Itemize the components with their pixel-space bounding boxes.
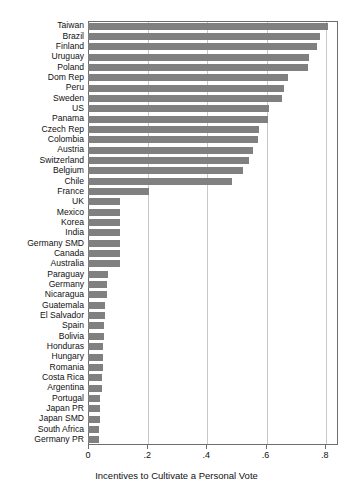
bar-row: [88, 62, 338, 72]
x-axis-title: Incentives to Cultivate a Personal Vote: [0, 470, 353, 481]
bar: [88, 281, 107, 288]
category-label: Dom Rep: [0, 72, 84, 82]
category-label: Nicaragua: [0, 289, 84, 299]
category-label: Spain: [0, 320, 84, 330]
category-label: Guatemala: [0, 300, 84, 310]
category-label: US: [0, 103, 84, 113]
bar-row: [88, 104, 338, 114]
bar-row: [88, 176, 338, 186]
bar: [88, 95, 282, 102]
bar: [88, 240, 120, 247]
category-label: Germany PR: [0, 434, 84, 444]
bar-row: [88, 269, 338, 279]
bar-row: [88, 373, 338, 383]
bar: [88, 291, 107, 298]
bar: [88, 416, 100, 423]
category-label: France: [0, 186, 84, 196]
bar-row: [88, 435, 338, 445]
bar-row: [88, 31, 338, 41]
category-labels: TaiwanBrazilFinlandUruguayPolandDom RepP…: [0, 21, 84, 445]
bar: [88, 33, 320, 40]
category-label: Panama: [0, 113, 84, 123]
bar: [88, 302, 105, 309]
bar: [88, 198, 120, 205]
bar-row: [88, 228, 338, 238]
bar: [88, 43, 317, 50]
category-label: Japan PR: [0, 403, 84, 413]
x-tick-label: 0: [73, 450, 103, 461]
category-label: Brazil: [0, 31, 84, 41]
bar: [88, 74, 288, 81]
bar: [88, 374, 102, 381]
bar-row: [88, 321, 338, 331]
bar-row: [88, 83, 338, 93]
x-tick-mark: [147, 445, 148, 449]
bar: [88, 322, 104, 329]
bar: [88, 436, 99, 443]
bar: [88, 364, 103, 371]
category-label: Argentina: [0, 382, 84, 392]
bar-chart-figure: TaiwanBrazilFinlandUruguayPolandDom RepP…: [0, 0, 353, 497]
bar: [88, 85, 284, 92]
category-label: Korea: [0, 217, 84, 227]
bar: [88, 312, 105, 319]
bar: [88, 271, 108, 278]
category-label: South Africa: [0, 424, 84, 434]
bar: [88, 147, 253, 154]
category-label: Poland: [0, 62, 84, 72]
x-tick-label: .6: [251, 450, 281, 461]
bar-row: [88, 362, 338, 372]
bar: [88, 260, 120, 267]
bar-row: [88, 145, 338, 155]
bar-row: [88, 290, 338, 300]
bar: [88, 105, 269, 112]
bar-row: [88, 217, 338, 227]
bar-row: [88, 404, 338, 414]
bar: [88, 229, 120, 236]
bar-row: [88, 124, 338, 134]
bar: [88, 354, 103, 361]
bar: [88, 178, 232, 185]
bar: [88, 116, 268, 123]
bar: [88, 209, 120, 216]
bar-row: [88, 311, 338, 321]
bar-row: [88, 73, 338, 83]
bar-row: [88, 249, 338, 259]
category-label: Bolivia: [0, 331, 84, 341]
bar-row: [88, 93, 338, 103]
category-label: Paraguay: [0, 269, 84, 279]
bar-row: [88, 342, 338, 352]
category-label: Czech Rep: [0, 124, 84, 134]
bar: [88, 395, 100, 402]
category-label: UK: [0, 196, 84, 206]
bar: [88, 188, 149, 195]
bar-row: [88, 331, 338, 341]
category-label: Hungary: [0, 351, 84, 361]
category-label: Portugal: [0, 393, 84, 403]
bar: [88, 54, 309, 61]
category-label: Colombia: [0, 134, 84, 144]
category-label: Germany SMD: [0, 238, 84, 248]
bar-row: [88, 383, 338, 393]
bar-row: [88, 21, 338, 31]
bar: [88, 343, 103, 350]
category-label: Uruguay: [0, 51, 84, 61]
category-label: India: [0, 227, 84, 237]
bar-row: [88, 207, 338, 217]
bar: [88, 405, 100, 412]
bar: [88, 385, 102, 392]
x-tick-mark: [88, 445, 89, 449]
bar: [88, 157, 249, 164]
category-label: Finland: [0, 41, 84, 51]
bar: [88, 64, 308, 71]
bar-row: [88, 197, 338, 207]
bar: [88, 333, 104, 340]
bar-row: [88, 259, 338, 269]
category-label: Canada: [0, 248, 84, 258]
category-label: Japan SMD: [0, 413, 84, 423]
bar-row: [88, 238, 338, 248]
category-label: Honduras: [0, 341, 84, 351]
category-label: Sweden: [0, 93, 84, 103]
bar-row: [88, 424, 338, 434]
category-label: Chile: [0, 176, 84, 186]
